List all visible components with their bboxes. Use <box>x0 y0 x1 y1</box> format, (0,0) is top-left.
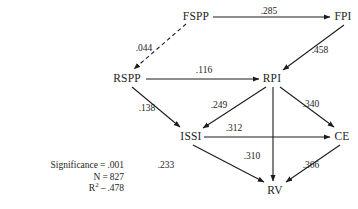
node-issi[interactable]: ISSI <box>180 130 201 142</box>
edge-label-rpi-rv: .310 <box>244 151 261 161</box>
edge-label-fspp-fpi: .285 <box>261 6 278 16</box>
node-rpi[interactable]: RPI <box>263 72 282 84</box>
edge-label-fpi-rpi: .458 <box>312 45 329 55</box>
edge-label-fspp-rspp: .044 <box>136 43 153 53</box>
n-equals: = <box>100 172 109 182</box>
node-ce[interactable]: CE <box>334 130 349 142</box>
edge-label-issi-rv: .233 <box>158 160 175 170</box>
edge-label-rspp-rpi: .116 <box>196 65 212 75</box>
node-fpi[interactable]: FPI <box>334 10 351 22</box>
node-rspp[interactable]: RSPP <box>113 72 141 84</box>
n-value: 827 <box>110 172 124 182</box>
edge-label-rspp-issi: .138 <box>139 103 156 113</box>
path-diagram-figure: FSPP FPI RSPP RPI ISSI CE RV .285 .044 .… <box>0 0 358 209</box>
edge-label-rpi-ce: .340 <box>303 99 320 109</box>
edge-label-issi-ce: .312 <box>226 123 243 133</box>
edge-label-rpi-issi: .249 <box>211 100 228 110</box>
stat-row-r-squared: R2–.478 <box>12 183 124 195</box>
significance-value: .001 <box>107 160 124 170</box>
r-squared-value: .478 <box>107 183 124 193</box>
stat-row-significance: Significance=.001 <box>12 160 124 172</box>
node-rv[interactable]: RV <box>267 184 282 196</box>
statistics-block: Significance=.001 N=827 R2–.478 <box>12 160 124 195</box>
stat-row-n: N=827 <box>12 172 124 184</box>
node-fspp[interactable]: FSPP <box>183 10 209 22</box>
significance-label: Significance <box>51 160 98 170</box>
edge-label-ce-rv: .366 <box>303 160 320 170</box>
significance-equals: = <box>98 160 107 170</box>
